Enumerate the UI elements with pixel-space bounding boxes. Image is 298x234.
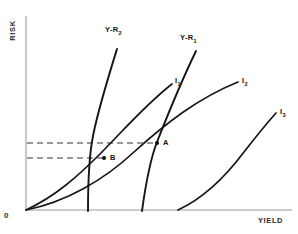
curve-label-i2: I2 [242,76,248,85]
curve-label-i1-sub: 1 [177,81,180,87]
chart-canvas [0,0,298,234]
curve-label-yr2-text: Y-R [105,25,118,34]
curve-yr2 [88,49,117,211]
curve-i3 [178,113,276,210]
curve-label-yr2: Y-R2 [105,25,122,34]
x-axis-title: YIELD [258,216,283,225]
curve-i1 [26,84,172,210]
y-axis-title: RISK [8,11,17,51]
curve-label-i2-sub: 2 [244,81,247,87]
curve-label-i3-sub: 3 [282,112,285,118]
curve-label-i1: I1 [175,76,181,85]
point-a-label: A [163,138,168,147]
curve-label-yr2-sub: 2 [118,30,121,36]
curve-label-yr1: Y-R1 [180,33,197,42]
curve-label-i3: I3 [280,107,286,116]
curve-label-yr1-text: Y-R [180,33,193,42]
curve-yr1 [142,51,196,211]
point-a-marker [155,141,159,145]
origin-label: 0 [4,211,8,220]
risk-yield-chart: RISK YIELD 0 Y-R2 Y-R1 I1 I2 I3 A B [0,0,298,234]
curve-label-yr1-sub: 1 [193,38,196,44]
point-b-label: B [110,153,115,162]
point-b-marker [102,156,106,160]
